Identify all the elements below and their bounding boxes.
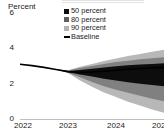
x-axis-tick-label: 2025 <box>146 121 164 130</box>
chart-legend: 50 percent80 percent90 percentBaseline <box>64 7 122 41</box>
legend-item-label: 50 percent <box>71 7 106 15</box>
legend-item-label: Baseline <box>71 33 99 41</box>
x-axis-tick-label: 2024 <box>101 121 131 130</box>
legend-item-label: 90 percent <box>71 24 106 32</box>
truncated-title-above <box>62 0 144 5</box>
legend-item[interactable]: 90 percent <box>64 24 122 32</box>
y-axis-tick-label: 6 <box>2 8 14 17</box>
legend-square-icon <box>64 9 69 14</box>
y-axis-tick-label: 2 <box>2 79 14 88</box>
legend-square-icon <box>64 17 69 22</box>
legend-item[interactable]: Baseline <box>64 33 122 41</box>
fan-chart: Percent 0246 2022202320242025 50 percent… <box>0 0 164 139</box>
legend-line-icon <box>64 36 70 38</box>
y-axis-tick-label: 4 <box>2 43 14 52</box>
x-axis-tick-label: 2022 <box>8 121 38 130</box>
legend-square-icon <box>64 26 69 31</box>
legend-item[interactable]: 50 percent <box>64 7 122 15</box>
x-axis-tick-label: 2023 <box>53 121 83 130</box>
